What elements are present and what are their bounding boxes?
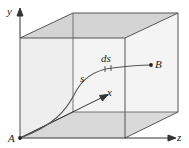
- point-a-label: A: [8, 133, 15, 144]
- ds-label: ds: [101, 53, 111, 64]
- path-label: s: [80, 73, 84, 84]
- point-b-dot: [149, 63, 153, 67]
- point-b-label: B: [155, 59, 162, 70]
- z-axis-label: z: [177, 132, 181, 143]
- y-axis-label: y: [7, 6, 12, 17]
- cube-diagram: [0, 0, 189, 148]
- x-axis-label: x: [107, 87, 112, 98]
- z-axis-arrowhead: [168, 135, 176, 141]
- y-axis-arrowhead: [17, 8, 23, 16]
- point-a-dot: [18, 136, 22, 140]
